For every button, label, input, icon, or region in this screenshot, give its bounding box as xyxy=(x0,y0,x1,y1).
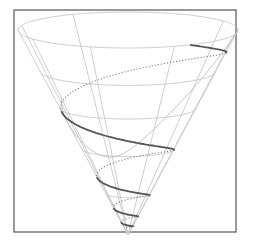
cone-helix-diagram xyxy=(0,0,255,243)
cone-figure xyxy=(0,0,255,243)
cone-grid xyxy=(18,12,238,235)
